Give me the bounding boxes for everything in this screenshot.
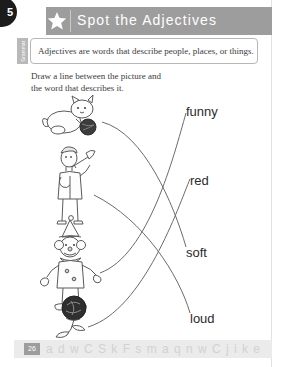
definition-text: Adjectives are words that describe peopl…	[38, 46, 254, 56]
directions-line-1: Draw a line between the picture and	[31, 70, 211, 82]
word-red[interactable]: red	[190, 173, 209, 188]
picture-trumpet-player	[57, 147, 95, 224]
chapter-badge-number: 5	[7, 7, 13, 18]
side-tab: Grammar	[17, 38, 28, 64]
connector-trumpet-loud	[94, 195, 190, 313]
footer-decorative-letters: a d w C S k F s m a q n w C j i k e y z	[46, 341, 261, 357]
worksheet-page: Spot the Adjectives 5 Grammar Adjectives…	[0, 0, 286, 367]
word-funny[interactable]: funny	[186, 104, 218, 119]
definition-box: Adjectives are words that describe peopl…	[30, 38, 258, 64]
directions: Draw a line between the picture and the …	[31, 70, 211, 94]
directions-line-2: the word that describes it.	[31, 82, 211, 94]
side-tab-label: Grammar	[20, 40, 25, 61]
picture-kitten	[43, 95, 96, 135]
header-notch	[28, 7, 46, 35]
matching-activity	[14, 95, 272, 335]
picture-rose	[56, 296, 86, 337]
word-loud[interactable]: loud	[190, 311, 215, 326]
star-icon	[47, 11, 67, 31]
page-number: 26	[24, 343, 40, 355]
word-soft[interactable]: soft	[186, 245, 207, 260]
header-divider	[70, 10, 71, 32]
connector-clown-funny	[100, 113, 186, 273]
page-title: Spot the Adjectives	[77, 12, 217, 28]
connector-rose-red	[88, 179, 190, 327]
picture-clown	[40, 216, 101, 310]
